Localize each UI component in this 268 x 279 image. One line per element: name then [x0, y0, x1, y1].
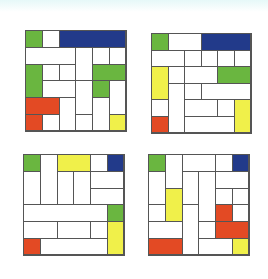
piece-white — [168, 66, 186, 84]
piece-white — [59, 64, 77, 82]
piece-green — [148, 154, 166, 172]
puzzle-bottom-left — [23, 154, 124, 255]
top-band — [0, 0, 268, 12]
piece-yellow — [234, 99, 252, 133]
piece-green — [25, 64, 43, 99]
piece-white — [75, 114, 93, 132]
piece-white — [42, 80, 77, 98]
piece-red — [23, 238, 41, 256]
piece-white — [184, 50, 202, 68]
piece-white — [168, 33, 202, 51]
piece-white — [148, 171, 166, 206]
piece-white — [182, 154, 217, 172]
piece-white — [40, 154, 58, 205]
piece-white — [215, 171, 250, 189]
piece-green — [151, 33, 169, 51]
piece-white — [23, 171, 41, 206]
piece-green — [107, 204, 125, 222]
piece-white — [57, 171, 75, 206]
piece-white — [148, 221, 183, 239]
piece-white — [42, 114, 60, 132]
piece-blue — [107, 154, 125, 172]
piece-blue — [201, 33, 252, 51]
piece-white — [184, 116, 235, 134]
piece-red — [151, 116, 169, 134]
piece-white — [215, 188, 233, 206]
piece-yellow — [57, 154, 92, 172]
piece-green — [23, 154, 41, 172]
piece-yellow — [232, 238, 250, 256]
piece-white — [23, 204, 108, 222]
piece-white — [217, 50, 235, 68]
piece-red — [25, 97, 60, 115]
piece-white — [232, 204, 250, 222]
piece-green — [217, 66, 251, 84]
piece-yellow — [151, 66, 169, 100]
piece-white — [90, 154, 108, 172]
piece-white — [92, 97, 110, 132]
puzzle-top-right — [151, 33, 251, 133]
piece-white — [217, 99, 235, 117]
piece-white — [201, 50, 219, 68]
piece-white — [90, 188, 125, 206]
piece-white — [184, 83, 202, 101]
piece-yellow — [109, 114, 127, 132]
piece-white — [23, 221, 58, 239]
piece-white — [25, 47, 76, 65]
piece-white — [42, 30, 60, 48]
piece-white — [42, 64, 60, 82]
piece-white — [184, 66, 218, 84]
piece-green — [92, 80, 110, 98]
piece-red — [148, 238, 183, 256]
piece-white — [165, 154, 183, 189]
piece-white — [75, 80, 93, 115]
piece-white — [198, 238, 233, 256]
piece-white — [57, 221, 92, 239]
puzzle-bottom-right — [148, 154, 249, 255]
piece-white — [198, 221, 216, 239]
piece-red — [25, 114, 43, 132]
piece-white — [73, 171, 91, 206]
piece-white — [92, 47, 110, 65]
piece-white — [90, 171, 125, 189]
piece-yellow — [107, 221, 125, 256]
piece-blue — [232, 154, 250, 172]
piece-white — [40, 238, 108, 256]
piece-white — [109, 80, 127, 115]
piece-blue — [59, 30, 127, 48]
piece-white — [75, 47, 93, 82]
piece-white — [232, 188, 250, 206]
piece-white — [215, 154, 233, 172]
piece-white — [198, 171, 216, 222]
piece-white — [151, 50, 185, 68]
piece-green — [92, 64, 127, 82]
piece-white — [148, 204, 166, 222]
piece-white — [109, 47, 127, 65]
piece-white — [182, 171, 200, 206]
piece-white — [234, 50, 252, 68]
piece-white — [201, 83, 252, 101]
piece-white — [90, 221, 108, 239]
piece-white — [151, 99, 169, 117]
piece-red — [215, 204, 233, 222]
piece-white — [184, 99, 218, 117]
piece-yellow — [165, 188, 183, 223]
puzzle-top-left — [25, 30, 126, 131]
piece-green — [25, 30, 43, 48]
piece-white — [59, 97, 77, 132]
piece-white — [168, 83, 186, 134]
piece-red — [215, 221, 250, 239]
piece-white — [182, 204, 200, 255]
